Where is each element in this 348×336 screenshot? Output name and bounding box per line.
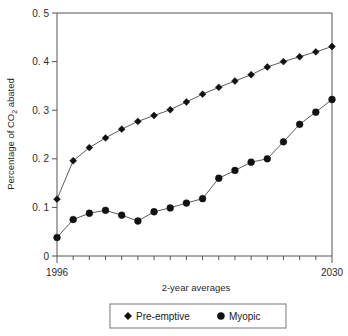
data-point: [151, 208, 158, 215]
data-point: [329, 96, 336, 103]
data-point: [102, 134, 109, 141]
data-point: [134, 118, 141, 125]
data-point: [183, 200, 190, 207]
y-tick-label: 0. 1: [32, 202, 49, 213]
data-point: [312, 48, 319, 55]
y-axis-title-tail: abated: [5, 78, 16, 110]
data-point: [54, 196, 61, 203]
legend-circle-marker-icon: [217, 312, 224, 319]
series-polyline: [57, 100, 332, 238]
series-pre-emptive: [54, 43, 336, 203]
legend-label: Myopic: [229, 311, 261, 322]
series-myopic: [54, 96, 336, 241]
y-tick-label: 0: [43, 251, 49, 262]
data-point: [296, 121, 303, 128]
data-point: [231, 78, 238, 85]
y-tick-label: 0. 3: [32, 105, 49, 116]
x-tick-label: 1996: [46, 267, 69, 278]
co2-abatement-line-chart: 00. 10. 20. 30. 40. 5 19962030 Percentag…: [0, 0, 348, 336]
y-axis-ticks: [52, 13, 57, 256]
chart-container: 00. 10. 20. 30. 40. 5 19962030 Percentag…: [0, 0, 348, 336]
data-point: [215, 84, 222, 91]
data-point: [312, 109, 319, 116]
data-point: [248, 159, 255, 166]
data-point: [118, 126, 125, 133]
data-point: [183, 98, 190, 105]
x-axis-title: 2-year averages: [162, 282, 231, 293]
data-point: [199, 195, 206, 202]
data-point: [54, 234, 61, 241]
data-point: [296, 53, 303, 60]
y-tick-label: 0. 4: [32, 56, 49, 67]
x-tick-label: 2030: [321, 267, 344, 278]
data-point: [167, 106, 174, 113]
data-point: [134, 218, 141, 225]
data-point: [167, 204, 174, 211]
y-tick-label: 0. 5: [32, 8, 49, 19]
data-point: [232, 167, 239, 174]
y-axis-title-group: Percentage of CO2 abated: [5, 78, 18, 190]
data-point: [248, 71, 255, 78]
data-point: [264, 63, 271, 70]
series-polyline: [57, 47, 332, 200]
data-point: [151, 112, 158, 119]
data-series-layer: [54, 43, 336, 241]
y-axis-title: Percentage of CO2 abated: [5, 78, 18, 190]
x-axis-tick-labels: 19962030: [46, 267, 344, 278]
data-point: [215, 175, 222, 182]
data-point: [102, 207, 109, 214]
data-point: [329, 43, 336, 50]
y-axis-title-main: Percentage of CO: [5, 114, 16, 190]
data-point: [280, 138, 287, 145]
data-point: [199, 91, 206, 98]
y-tick-label: 0. 2: [32, 153, 49, 164]
chart-legend: Pre-emptiveMyopic: [110, 304, 286, 328]
data-point: [264, 155, 271, 162]
data-point: [118, 212, 125, 219]
legend-label: Pre-emptive: [136, 311, 190, 322]
x-axis-ticks: [57, 256, 332, 263]
data-point: [70, 216, 77, 223]
y-axis-tick-labels: 00. 10. 20. 30. 40. 5: [32, 8, 49, 262]
data-point: [86, 210, 93, 217]
data-point: [280, 58, 287, 65]
